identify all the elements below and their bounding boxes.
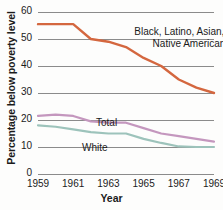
poverty-level-line-chart: Percentage below poverty level 010203040… xyxy=(0,0,223,210)
y-tick-label-40: 40 xyxy=(4,59,32,70)
series-label-minority-line1: Black, Latino, Asian, and xyxy=(134,26,223,37)
x-tick-label-1965: 1965 xyxy=(127,178,161,189)
series-label-minority: Black, Latino, Asian, and Native America… xyxy=(120,26,223,49)
x-tick-label-1961: 1961 xyxy=(56,178,90,189)
y-tick-label-50: 50 xyxy=(4,32,32,43)
x-tick-label-1967: 1967 xyxy=(162,178,196,189)
y-tick-label-60: 60 xyxy=(4,5,32,16)
plot-area: 0102030405060 195919611963196519671969 B… xyxy=(38,12,214,174)
x-tick-label-1959: 1959 xyxy=(21,178,55,189)
x-tick-label-1969: 1969 xyxy=(197,178,223,189)
gridline-0 xyxy=(38,174,214,175)
x-axis-title: Year xyxy=(0,192,223,204)
series-label-minority-line2: Native American xyxy=(153,38,223,49)
series-line-white xyxy=(38,125,214,147)
x-tick-label-1963: 1963 xyxy=(91,178,125,189)
y-tick-label-0: 0 xyxy=(4,167,32,178)
series-label-white: White xyxy=(82,142,108,154)
y-tick-label-30: 30 xyxy=(4,86,32,97)
y-tick-label-10: 10 xyxy=(4,140,32,151)
series-label-total: Total xyxy=(96,117,117,129)
y-tick-label-20: 20 xyxy=(4,113,32,124)
